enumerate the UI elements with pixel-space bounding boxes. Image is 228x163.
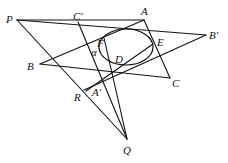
label-F: F <box>96 37 104 49</box>
label-A: A <box>140 5 148 17</box>
label-C-prime: C′ <box>73 10 83 22</box>
label-D: D <box>114 53 123 65</box>
line-PB-prime <box>17 20 206 35</box>
label-alpha: α <box>91 46 97 58</box>
label-B-prime: B′ <box>209 29 219 41</box>
label-Q: Q <box>123 144 131 156</box>
label-B: B <box>27 60 34 72</box>
inscribed-ellipse <box>99 29 153 65</box>
label-E: E <box>156 36 164 48</box>
line-BC <box>40 64 170 78</box>
label-R: R <box>73 91 81 103</box>
label-A-prime: A′ <box>91 86 102 98</box>
line-PQ <box>17 20 127 139</box>
figure-canvas: P A B C A′ B′ C′ D E F Q R α <box>0 0 228 163</box>
label-C: C <box>172 77 180 89</box>
label-P: P <box>5 13 13 25</box>
geometry-figure: P A B C A′ B′ C′ D E F Q R α <box>0 0 228 163</box>
line-AC <box>144 20 170 78</box>
